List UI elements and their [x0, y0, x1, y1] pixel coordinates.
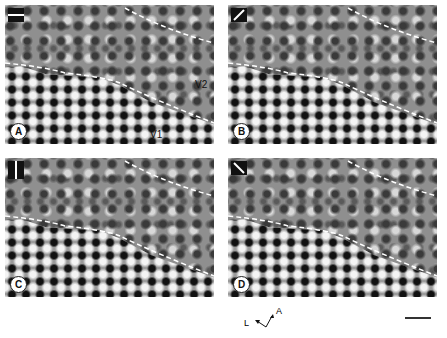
vertical-grating-icon	[8, 161, 24, 179]
panel-label-a: A	[10, 123, 27, 140]
compass-arrows-icon	[244, 305, 294, 335]
panel-b: B	[228, 5, 437, 144]
area-boundary-lines	[228, 158, 437, 297]
area-boundary-lines	[5, 5, 214, 144]
scale-bar	[405, 317, 431, 319]
area-boundary-lines	[228, 5, 437, 144]
area-label-v1: V1	[150, 129, 162, 140]
lateral-label: L	[244, 318, 249, 328]
horizontal-grating-icon	[8, 8, 24, 22]
panel-d: D	[228, 158, 437, 297]
panel-a: V2 V1 A	[5, 5, 214, 144]
area-label-v2: V2	[195, 79, 207, 90]
oblique-grating-icon	[231, 161, 247, 175]
orientation-compass: L A	[244, 305, 294, 335]
panel-c: C	[5, 158, 214, 297]
panel-label-d: D	[233, 276, 250, 293]
panel-label-c: C	[10, 276, 27, 293]
area-boundary-lines	[5, 158, 214, 297]
panel-label-b: B	[233, 123, 250, 140]
oblique-grating-icon	[231, 8, 247, 22]
anterior-label: A	[276, 306, 282, 316]
